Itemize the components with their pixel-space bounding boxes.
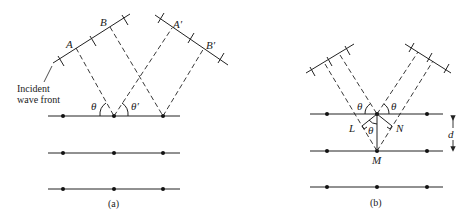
incident-leader-line (44, 66, 52, 82)
label-theta-a: θ (91, 100, 97, 112)
label-theta-prime-a: θ′ (131, 100, 139, 112)
rays-b (325, 52, 433, 151)
label-N: N (395, 122, 404, 134)
panel-a: A B A′ B′ θ θ′ Incident wave front (a) (17, 13, 228, 210)
theta-arc-left-b (365, 104, 370, 114)
incident-wavefront (53, 14, 130, 66)
label-B-prime: B′ (206, 39, 216, 51)
label-theta-left-b: θ (357, 100, 363, 112)
reflected-wavefront (155, 13, 228, 65)
label-d: d (448, 128, 454, 140)
caption-a: (a) (108, 198, 119, 210)
theta-prime-arc-a (122, 103, 128, 116)
label-L: L (348, 122, 355, 134)
caption-b: (b) (370, 197, 382, 209)
construction-lines-b (362, 114, 392, 151)
label-A-prime: A′ (172, 18, 183, 30)
label-theta-inner-b: θ (368, 124, 374, 136)
label-B: B (100, 16, 107, 28)
label-M: M (371, 154, 382, 166)
incident-wavefront-b (306, 44, 354, 76)
label-A: A (65, 38, 73, 50)
theta-arc-a (100, 103, 106, 116)
panel-b: θ θ θ L N M d (b) (306, 43, 454, 209)
diagram-canvas: A B A′ B′ θ θ′ Incident wave front (a) (0, 0, 470, 217)
incident-label-line1: Incident (17, 83, 50, 94)
theta-arc-right-b (384, 104, 389, 114)
incident-label-line2: wave front (17, 94, 60, 105)
label-theta-right-b: θ (391, 100, 397, 112)
